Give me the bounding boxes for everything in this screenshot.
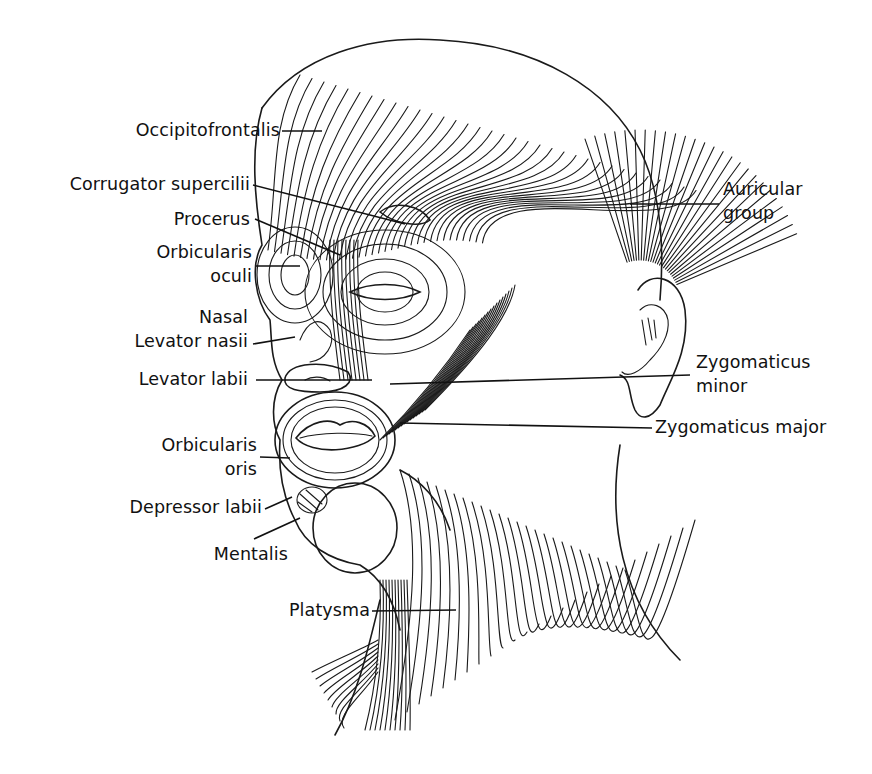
leader-mentalis (254, 518, 300, 539)
nasal-fiber (334, 240, 344, 380)
auricular-fiber (653, 139, 695, 262)
label-levator-nasii: Levator nasii (134, 330, 248, 352)
frontalis-fiber (359, 124, 468, 257)
nasal-fiber (354, 240, 364, 380)
auricular-fiber (660, 152, 724, 265)
muscle-fibers (268, 75, 797, 730)
frontalis-fiber (379, 135, 505, 254)
platysma-fiber (463, 498, 479, 664)
nasal-fiber (338, 240, 348, 380)
nasal-fiber (342, 240, 352, 380)
frontalis-fiber (268, 75, 300, 250)
platysma-fiber (454, 494, 469, 672)
far-eye (257, 227, 333, 323)
nasal-fiber (350, 240, 360, 380)
auricular-fiber (662, 157, 732, 266)
label-levator-labii: Levator labii (139, 368, 248, 390)
label-orbicularis-oris-line2: oris (225, 458, 257, 480)
platysma-fiber (526, 526, 563, 628)
platysma-fiber (472, 502, 491, 656)
nose (285, 322, 350, 392)
leader-orbicularis-oris (260, 457, 290, 458)
platysma-fiber (553, 538, 599, 627)
auricular-fiber (676, 225, 792, 283)
platysma-fiber (418, 478, 431, 704)
nasal-fiber (358, 240, 368, 380)
label-orbicularis-oculi-line1: Orbicularis (156, 241, 252, 263)
facial-muscles-diagram: Occipitofrontalis Corrugator supercilii … (0, 0, 872, 774)
label-zygomaticus-minor-line1: Zygomaticus (696, 351, 811, 373)
label-zygomaticus-minor-line2: minor (696, 375, 747, 397)
ear (620, 278, 686, 417)
platysma-fiber (370, 580, 383, 730)
label-occipitofrontalis: Occipitofrontalis (136, 119, 280, 141)
frontalis-fiber (385, 138, 516, 251)
platysma-fiber (436, 486, 450, 688)
auricular-fiber (635, 130, 639, 260)
label-auricular-line1: Auricular (723, 178, 803, 200)
frontalis-fiber (353, 121, 457, 259)
label-corrugator-supercilii: Corrugator supercilii (70, 173, 250, 195)
auricular-fiber (675, 216, 788, 281)
leader-levator-nasii (253, 337, 295, 344)
frontalis-fiber (314, 100, 385, 260)
leader-platysma (372, 610, 456, 611)
frontalis-fiber (307, 96, 372, 258)
label-procerus: Procerus (174, 208, 250, 230)
platysma-fiber (508, 518, 539, 632)
label-orbicularis-oris-line1: Orbicularis (161, 434, 257, 456)
label-mentalis: Mentalis (214, 543, 288, 565)
label-zygomaticus-major: Zygomaticus major (655, 416, 826, 438)
leader-corrugator (253, 185, 405, 224)
nasal-fiber (346, 240, 356, 380)
platysma-fiber (481, 506, 503, 648)
label-depressor-labii: Depressor labii (129, 496, 262, 518)
label-nasal: Nasal (199, 306, 248, 328)
label-platysma: Platysma (289, 599, 370, 621)
chin (297, 483, 397, 573)
platysma-fiber (427, 482, 441, 696)
platysma-fiber (625, 520, 695, 639)
platysma-fiber (400, 580, 402, 730)
leader-zygomaticus-major (400, 423, 652, 428)
mouth (275, 392, 395, 488)
label-orbicularis-oculi-line2: oculi (210, 265, 252, 287)
label-auricular-line2: group (723, 202, 774, 224)
